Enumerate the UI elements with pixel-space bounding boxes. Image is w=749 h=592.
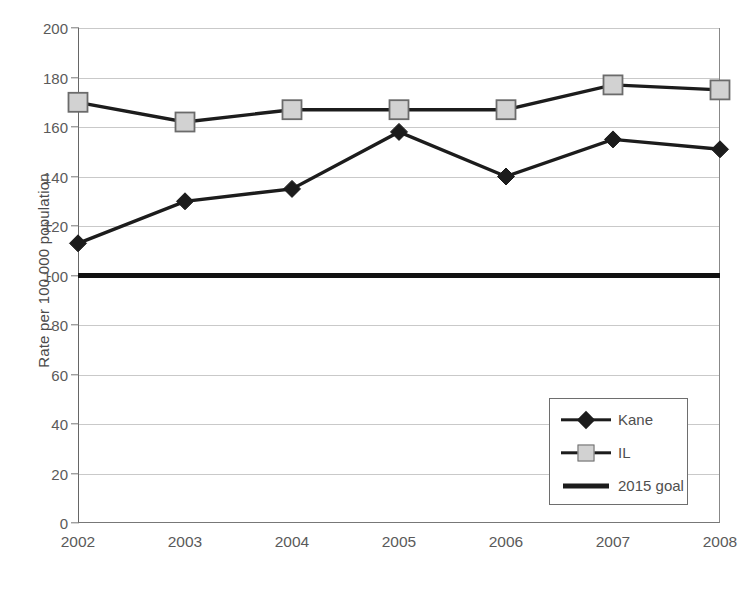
x-tick-label: 2005 (359, 533, 439, 551)
y-tick-label: 120 (8, 218, 68, 235)
y-tick-label: 0 (8, 515, 68, 532)
y-tick-label: 180 (8, 69, 68, 86)
legend-entry-kane: Kane (550, 402, 687, 437)
legend-label-goal: 2015 goal (618, 477, 684, 494)
gridline (79, 375, 719, 376)
y-tick-mark (71, 275, 79, 276)
y-tick-mark (71, 374, 79, 375)
gridline (79, 325, 719, 326)
gridline (79, 78, 719, 79)
x-tick-label: 2004 (252, 533, 332, 551)
y-tick-label: 200 (8, 20, 68, 37)
square-marker-icon (559, 440, 613, 466)
legend-entry-goal: 2015 goal (550, 468, 687, 503)
y-tick-mark (71, 423, 79, 424)
solid-line-icon (559, 473, 613, 499)
y-tick-label: 140 (8, 168, 68, 185)
y-tick-label: 80 (8, 317, 68, 334)
y-tick-label: 20 (8, 465, 68, 482)
y-tick-mark (71, 324, 79, 325)
y-tick-label: 160 (8, 119, 68, 136)
legend: Kane IL 2015 goal (549, 398, 688, 505)
x-tick-label: 2002 (38, 533, 118, 551)
x-tick-label: 2003 (145, 533, 225, 551)
y-tick-mark (71, 126, 79, 127)
y-tick-mark (71, 77, 79, 78)
gridline (79, 276, 719, 277)
gridline (79, 177, 719, 178)
y-tick-mark (71, 176, 79, 177)
legend-label-kane: Kane (618, 411, 653, 428)
y-tick-label: 60 (8, 366, 68, 383)
diamond-marker-icon (559, 407, 613, 433)
gridline (79, 226, 719, 227)
line-chart: Rate per 100,000 population 020406080100… (0, 0, 749, 592)
x-tick-label: 2008 (680, 533, 749, 551)
legend-entry-il: IL (550, 435, 687, 470)
y-tick-mark (71, 225, 79, 226)
x-tick-label: 2007 (573, 533, 653, 551)
y-tick-mark (71, 27, 79, 28)
y-tick-mark (71, 522, 79, 523)
y-tick-mark (71, 473, 79, 474)
legend-label-il: IL (618, 444, 631, 461)
y-tick-label: 40 (8, 416, 68, 433)
y-tick-label: 100 (8, 267, 68, 284)
gridline (79, 127, 719, 128)
gridline (79, 28, 719, 29)
x-tick-label: 2006 (466, 533, 546, 551)
